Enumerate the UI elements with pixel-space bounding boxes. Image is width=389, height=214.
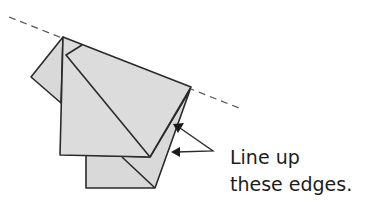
arrow-head-lower [171, 147, 180, 157]
origami-diagram: Line up these edges. [0, 0, 389, 214]
left-flap [31, 37, 63, 103]
instruction-line-1: Line up [230, 148, 300, 167]
arrow-leader-lines [176, 128, 213, 152]
instruction-line-2: these edges. [230, 175, 352, 194]
arrow-pointers [171, 123, 213, 157]
